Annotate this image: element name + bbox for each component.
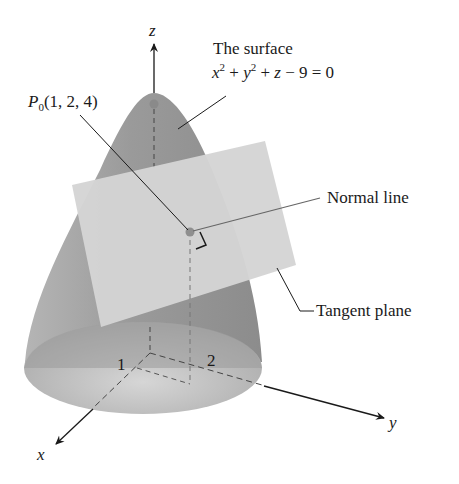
surface-label: The surface (213, 40, 293, 57)
p0-label: P0(1, 2, 4) (28, 93, 98, 113)
y-axis (264, 386, 384, 418)
tangent-plane-label: Tangent plane (316, 302, 412, 319)
x-tick-label: 1 (117, 356, 126, 373)
surface-leader-line (178, 96, 226, 129)
apex-point (150, 100, 159, 109)
axis-label-x: x (37, 446, 45, 463)
surface-label-title: The surface (213, 40, 293, 57)
axis-label-y: y (389, 414, 397, 431)
tangent-plane-leader-line (277, 268, 314, 311)
normal-line-label: Normal line (327, 189, 409, 206)
y-tick-label: 2 (207, 352, 216, 369)
x-axis (56, 409, 93, 444)
axis-label-z: z (149, 22, 156, 39)
surface-equation: x2 + y2 + z − 9 = 0 (212, 62, 334, 81)
